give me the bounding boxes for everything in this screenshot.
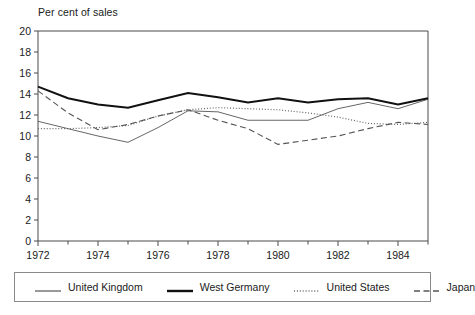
legend-item-united-states[interactable]: United States <box>294 281 390 293</box>
y-tick-label: 2 <box>25 214 31 226</box>
legend-label: Japan <box>447 281 475 293</box>
x-tick-label: 1974 <box>86 249 110 261</box>
dotted-swatch <box>294 282 320 292</box>
legend-item-united-kingdom[interactable]: United Kingdom <box>35 281 143 293</box>
legend-row: United KingdomWest GermanyUnited StatesJ… <box>15 273 430 301</box>
y-tick-label: 6 <box>25 172 31 184</box>
chart-legend: United KingdomWest GermanyUnited StatesJ… <box>14 272 431 302</box>
x-tick-label: 1978 <box>206 249 230 261</box>
y-tick-label: 10 <box>19 130 31 142</box>
series-line-united-states <box>38 108 428 129</box>
y-tick-label: 12 <box>19 109 31 121</box>
y-tick-label: 20 <box>19 25 31 37</box>
x-tick-label: 1972 <box>26 249 50 261</box>
legend-label: West Germany <box>200 281 270 293</box>
data-series-group <box>38 87 428 145</box>
y-tick-label: 14 <box>19 88 31 100</box>
y-tick-label: 16 <box>19 67 31 79</box>
legend-label: United States <box>327 281 390 293</box>
legend-label: United Kingdom <box>68 281 143 293</box>
y-tick-label: 18 <box>19 46 31 58</box>
y-tick-label: 0 <box>25 235 31 247</box>
x-axis-tick-group: 1972197419761978198019821984 <box>26 241 428 261</box>
legend-item-west-germany[interactable]: West Germany <box>167 281 270 293</box>
x-tick-label: 1980 <box>266 249 290 261</box>
dashed-swatch <box>414 282 440 292</box>
x-tick-label: 1982 <box>326 249 350 261</box>
solid-thick-swatch <box>167 282 193 292</box>
y-axis-tick-group: 02468101214161820 <box>19 25 38 247</box>
legend-item-japan[interactable]: Japan <box>414 281 475 293</box>
series-line-west-germany <box>38 87 428 108</box>
series-line-united-kingdom <box>38 99 428 142</box>
solid-thin-swatch <box>35 282 61 292</box>
y-tick-label: 4 <box>25 193 31 205</box>
y-tick-label: 8 <box>25 151 31 163</box>
x-tick-label: 1976 <box>146 249 170 261</box>
x-tick-label: 1984 <box>386 249 410 261</box>
